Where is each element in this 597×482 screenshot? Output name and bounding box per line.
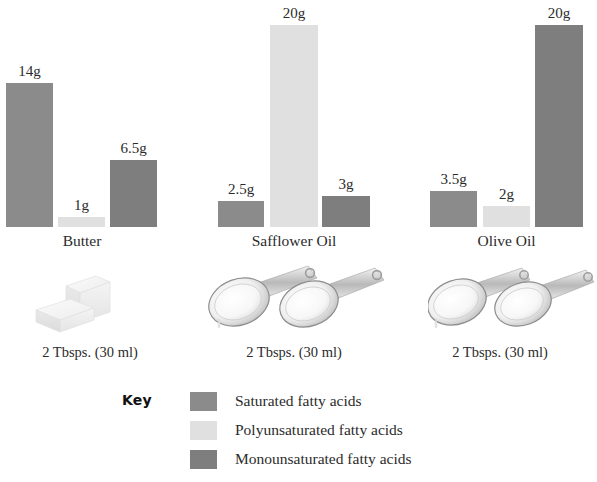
bar-fill bbox=[535, 25, 583, 227]
bar-fill bbox=[430, 191, 477, 227]
bar-value-label: 3g bbox=[339, 177, 354, 192]
serving-label-safflower-oil: 2 Tbsps. (30 ml) bbox=[204, 344, 384, 360]
group-label-butter: Butter bbox=[6, 233, 158, 249]
bar-butter-monounsaturated[interactable]: 6.5g bbox=[110, 160, 157, 227]
bar-safflower-polyunsaturated[interactable]: 20g bbox=[270, 25, 318, 227]
group-label-safflower-oil: Safflower Oil bbox=[218, 233, 370, 249]
fat-composition-chart: 14g 1g 6.5g Butter bbox=[0, 0, 597, 482]
bar-fill bbox=[218, 201, 264, 227]
measuring-spoons-svg bbox=[428, 256, 597, 344]
bar-butter-polyunsaturated[interactable]: 1g bbox=[58, 217, 105, 227]
serving-label-olive-oil: 2 Tbsps. (30 ml) bbox=[410, 344, 590, 360]
bar-value-label: 14g bbox=[18, 64, 41, 79]
legend-swatch-polyunsaturated-icon bbox=[190, 421, 217, 440]
legend-swatch-saturated-icon bbox=[190, 392, 217, 411]
butter-pats-svg bbox=[28, 272, 128, 340]
bar-safflower-monounsaturated[interactable]: 3g bbox=[322, 196, 370, 227]
measuring-spoons-icon-olive bbox=[428, 256, 597, 344]
bar-olive-saturated[interactable]: 3.5g bbox=[430, 191, 477, 227]
bar-value-label: 3.5g bbox=[440, 172, 466, 187]
legend-label-monounsaturated: Monounsaturated fatty acids bbox=[235, 448, 411, 470]
bar-value-label: 20g bbox=[283, 6, 306, 21]
bar-value-label: 2g bbox=[499, 187, 514, 202]
bar-group-olive-oil: 3.5g 2g 20g bbox=[430, 0, 583, 232]
serving-label-butter: 2 Tbsps. (30 ml) bbox=[0, 344, 180, 360]
bar-value-label: 1g bbox=[74, 198, 89, 213]
bar-fill bbox=[6, 83, 53, 227]
bar-olive-polyunsaturated[interactable]: 2g bbox=[483, 206, 530, 227]
butter-pats-icon bbox=[28, 272, 128, 340]
bar-value-label: 6.5g bbox=[120, 141, 146, 156]
legend-label-saturated: Saturated fatty acids bbox=[235, 390, 362, 412]
bar-fill bbox=[270, 25, 318, 227]
bar-group-safflower-oil: 2.5g 20g 3g bbox=[218, 0, 370, 232]
bar-safflower-saturated[interactable]: 2.5g bbox=[218, 201, 264, 227]
group-label-olive-oil: Olive Oil bbox=[430, 233, 583, 249]
measuring-spoons-icon-safflower bbox=[205, 256, 395, 344]
bar-butter-saturated[interactable]: 14g bbox=[6, 83, 53, 227]
bar-group-butter: 14g 1g 6.5g bbox=[6, 0, 158, 232]
bar-value-label: 20g bbox=[548, 6, 571, 21]
measuring-spoons-svg bbox=[205, 256, 395, 344]
bar-fill bbox=[110, 160, 157, 227]
legend: Key Saturated fatty acids Polyunsaturate… bbox=[0, 386, 597, 482]
legend-label-polyunsaturated: Polyunsaturated fatty acids bbox=[235, 419, 403, 441]
legend-title: Key bbox=[122, 392, 152, 408]
bar-value-label: 2.5g bbox=[228, 182, 254, 197]
bar-fill bbox=[322, 196, 370, 227]
bar-olive-monounsaturated[interactable]: 20g bbox=[535, 25, 583, 227]
bar-fill bbox=[58, 217, 105, 227]
bar-fill bbox=[483, 206, 530, 227]
legend-swatch-monounsaturated-icon bbox=[190, 450, 217, 469]
